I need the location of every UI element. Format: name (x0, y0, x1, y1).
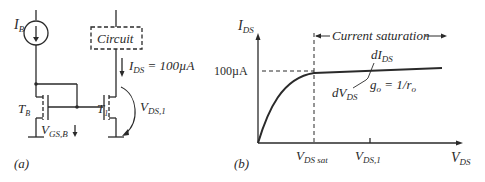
svg-text:TB: TB (18, 101, 30, 118)
svg-text:dIDS: dIDS (371, 47, 393, 64)
circuit-box-label: Circuit (97, 31, 134, 46)
svg-text:VGS,B: VGS,B (41, 122, 68, 139)
iv-curve (258, 68, 442, 143)
svg-text:IB: IB (13, 17, 25, 34)
region-label: Current saturation (332, 28, 429, 43)
ids-value: = 100µA (144, 58, 194, 73)
svg-text:T1: T1 (97, 101, 108, 118)
svg-text:VDS: VDS (451, 150, 471, 167)
y-tick-100ua: 100µA (214, 64, 248, 78)
caption-b: (b) (234, 156, 249, 171)
svg-text:IDS = 100µA: IDS = 100µA (128, 58, 195, 75)
svg-text:VDS,1: VDS,1 (140, 99, 166, 116)
diagram-canvas: IB Circuit IDS = 100µA TB T1 VGS,B VDS,1… (0, 0, 485, 182)
iv-chart (256, 33, 464, 146)
caption-a: (a) (14, 156, 29, 171)
svg-text:VDS,1: VDS,1 (355, 148, 381, 165)
ib-sub: B (19, 24, 25, 34)
svg-text:VDS sat: VDS sat (296, 148, 328, 165)
svg-text:IDS: IDS (237, 18, 254, 35)
transistor-t1-icon (104, 49, 124, 137)
di-label: dI (371, 47, 383, 62)
svg-text:go = 1/ro: go = 1/ro (370, 77, 416, 94)
circuit-schematic (24, 10, 142, 137)
